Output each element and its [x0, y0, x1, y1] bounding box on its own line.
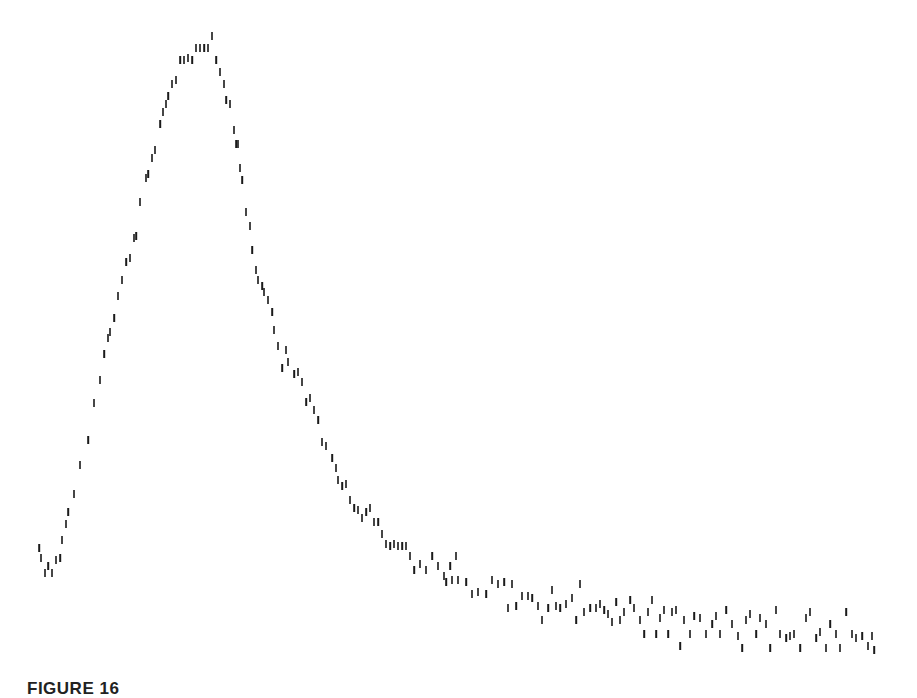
data-point — [103, 350, 105, 358]
data-point — [162, 108, 164, 116]
data-point — [373, 518, 375, 526]
data-point — [785, 634, 787, 642]
data-point — [381, 530, 383, 538]
data-point — [537, 602, 539, 610]
tick-marks — [38, 32, 875, 654]
data-point — [257, 276, 259, 284]
data-point — [389, 542, 391, 550]
data-point — [99, 376, 101, 384]
data-point — [365, 508, 367, 516]
data-point — [449, 562, 451, 570]
data-point — [413, 566, 415, 574]
data-point — [167, 92, 169, 100]
data-point — [47, 562, 49, 570]
data-point — [809, 608, 811, 616]
data-point — [251, 246, 253, 254]
data-point — [285, 346, 287, 354]
data-point — [603, 606, 605, 614]
data-point — [241, 176, 243, 184]
data-point — [745, 616, 747, 624]
data-point — [73, 490, 75, 498]
data-point — [699, 614, 701, 622]
data-point — [503, 578, 505, 586]
data-point — [633, 604, 635, 612]
data-point — [377, 518, 379, 526]
data-point — [805, 614, 807, 622]
data-point — [775, 606, 777, 614]
data-point — [337, 476, 339, 484]
data-point — [679, 642, 681, 650]
data-point — [541, 616, 543, 624]
data-point — [705, 630, 707, 638]
data-point — [731, 620, 733, 628]
data-point — [861, 632, 863, 640]
data-point — [683, 616, 685, 624]
data-point — [431, 552, 433, 560]
data-point — [239, 164, 241, 172]
data-point — [471, 590, 473, 598]
data-point — [281, 364, 283, 372]
data-point — [38, 544, 40, 552]
data-point — [419, 560, 421, 568]
data-point — [715, 612, 717, 620]
data-point — [615, 598, 617, 606]
data-point — [341, 482, 343, 490]
data-point — [147, 170, 149, 178]
data-point — [215, 56, 217, 64]
data-point — [267, 296, 269, 304]
data-point — [369, 504, 371, 512]
figure-caption: FIGURE 16 — [27, 679, 119, 698]
data-point — [245, 208, 247, 216]
data-point — [61, 536, 63, 544]
data-point — [151, 154, 153, 162]
data-point — [179, 56, 181, 64]
data-point — [331, 454, 333, 462]
data-point — [749, 610, 751, 618]
data-point — [237, 140, 239, 148]
data-point — [595, 604, 597, 612]
data-point — [521, 592, 523, 600]
data-point — [65, 520, 67, 528]
data-point — [235, 140, 237, 148]
data-point — [675, 606, 677, 614]
data-point — [293, 370, 295, 378]
data-point — [309, 394, 311, 402]
data-point — [199, 44, 201, 52]
data-point — [233, 126, 235, 134]
data-point — [59, 554, 61, 562]
data-point — [491, 576, 493, 584]
data-point — [277, 342, 279, 350]
data-point — [129, 254, 131, 262]
data-point — [287, 358, 289, 366]
data-point — [799, 644, 801, 652]
data-point — [249, 222, 251, 230]
data-point — [571, 594, 573, 602]
data-point — [741, 644, 743, 652]
data-point — [871, 632, 873, 640]
data-point — [555, 602, 557, 610]
data-point — [79, 461, 81, 469]
data-point — [409, 552, 411, 560]
data-point — [345, 480, 347, 488]
data-point — [93, 399, 95, 407]
data-point — [855, 634, 857, 642]
data-point — [789, 632, 791, 640]
data-point — [643, 630, 645, 638]
data-point — [211, 32, 213, 40]
data-point — [793, 630, 795, 638]
data-point — [40, 554, 42, 562]
data-point — [599, 600, 601, 608]
data-point — [145, 174, 147, 182]
data-point — [107, 334, 109, 342]
data-point — [845, 608, 847, 616]
data-point — [353, 504, 355, 512]
data-point — [579, 580, 581, 588]
data-point — [689, 630, 691, 638]
data-point — [109, 328, 111, 336]
data-point — [851, 630, 853, 638]
data-point — [457, 576, 459, 584]
data-point — [565, 600, 567, 608]
data-point — [667, 630, 669, 638]
data-point — [769, 644, 771, 652]
